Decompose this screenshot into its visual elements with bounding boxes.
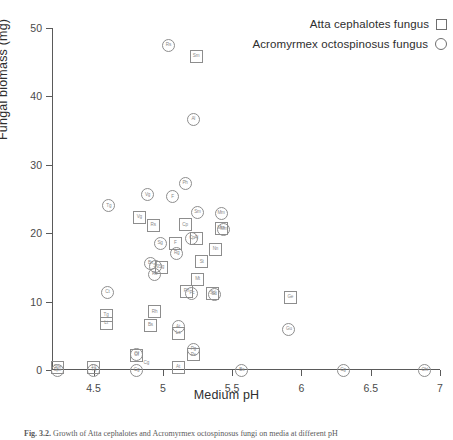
data-point-circle: Pg bbox=[187, 343, 200, 356]
y-tick-label: 30 bbox=[30, 159, 42, 171]
data-point-circle: Al bbox=[187, 113, 200, 126]
data-point-circle: Ohl bbox=[418, 364, 431, 377]
data-point-circle: Cg bbox=[337, 364, 350, 377]
x-axis-title: Medium pH bbox=[0, 388, 453, 402]
data-point-square: Sm bbox=[190, 50, 203, 63]
y-tick-label: 50 bbox=[30, 22, 42, 34]
data-point-square: At bbox=[172, 361, 185, 374]
data-point-circle: Vg bbox=[141, 188, 154, 201]
y-tick: 30 bbox=[46, 165, 52, 166]
x-tick: 5 bbox=[163, 370, 164, 376]
x-tick: 6.5 bbox=[371, 370, 372, 376]
data-point-square: Rs bbox=[147, 219, 160, 232]
data-point-circle: Spe bbox=[51, 364, 64, 377]
data-point-circle: Gu bbox=[282, 323, 295, 336]
data-point-square: Mt bbox=[191, 273, 204, 286]
data-point-circle: Rs bbox=[162, 39, 175, 52]
data-point-circle: Pc bbox=[185, 287, 198, 300]
x-tick: 7 bbox=[440, 370, 441, 376]
data-point-label: Cg bbox=[143, 360, 149, 365]
data-point-circle: At bbox=[172, 320, 185, 333]
data-point-square: Nn bbox=[209, 243, 222, 256]
y-tick-label: 10 bbox=[30, 296, 42, 308]
figure-container: Atta cephalotes fungus Acromyrmex octosp… bbox=[0, 0, 453, 440]
data-point-circle: Ct bbox=[101, 286, 114, 299]
data-point-circle: Mm bbox=[215, 207, 228, 220]
data-point-circle: Rs bbox=[148, 268, 161, 281]
data-point-square: Cp bbox=[179, 218, 192, 231]
data-point-circle: Sg bbox=[154, 237, 167, 250]
y-tick: 10 bbox=[46, 302, 52, 303]
data-point-circle: Cg bbox=[130, 364, 143, 377]
data-point-square: St bbox=[195, 255, 208, 268]
data-point-circle: F bbox=[166, 190, 179, 203]
x-tick: 6 bbox=[301, 370, 302, 376]
y-tick: 50 bbox=[46, 28, 52, 29]
y-axis-line bbox=[52, 28, 53, 370]
data-point-circle: Mm bbox=[217, 223, 230, 236]
data-point-square: Vg bbox=[133, 211, 146, 224]
data-point-square: Ge bbox=[284, 291, 297, 304]
caption-body: Growth of Atta cephalotes and Acromyrmex… bbox=[53, 429, 338, 438]
y-axis-title: Fungal biomass (mg) bbox=[0, 19, 10, 140]
y-tick-label: 20 bbox=[30, 227, 42, 239]
data-point-circle: Tg bbox=[102, 199, 115, 212]
data-point-circle: Bs bbox=[235, 364, 248, 377]
y-tick-label: 0 bbox=[36, 364, 42, 376]
y-tick-label: 40 bbox=[30, 90, 42, 102]
data-point-square: Lt bbox=[100, 317, 113, 330]
caption-number: Fig. 3.2. bbox=[24, 429, 51, 438]
data-point-circle: Sd bbox=[208, 288, 221, 301]
y-tick: 20 bbox=[46, 233, 52, 234]
plot-area: 01020304050 4.555.566.57 SmVgRsCpAlFSgMm… bbox=[52, 28, 440, 370]
data-point-circle: Ph bbox=[179, 177, 192, 190]
x-tick: 5.5 bbox=[232, 370, 233, 376]
data-point-circle: Rg bbox=[170, 247, 183, 260]
data-point-circle: Tq bbox=[87, 364, 100, 377]
figure-caption: Fig. 3.2. Growth of Atta cephalotes and … bbox=[24, 428, 444, 440]
data-point-circle: Sm bbox=[191, 206, 204, 219]
data-point-square: Bs bbox=[144, 319, 157, 332]
y-tick: 40 bbox=[46, 96, 52, 97]
data-point-square: Rh bbox=[148, 305, 161, 318]
data-point-circle: Of bbox=[130, 348, 143, 361]
